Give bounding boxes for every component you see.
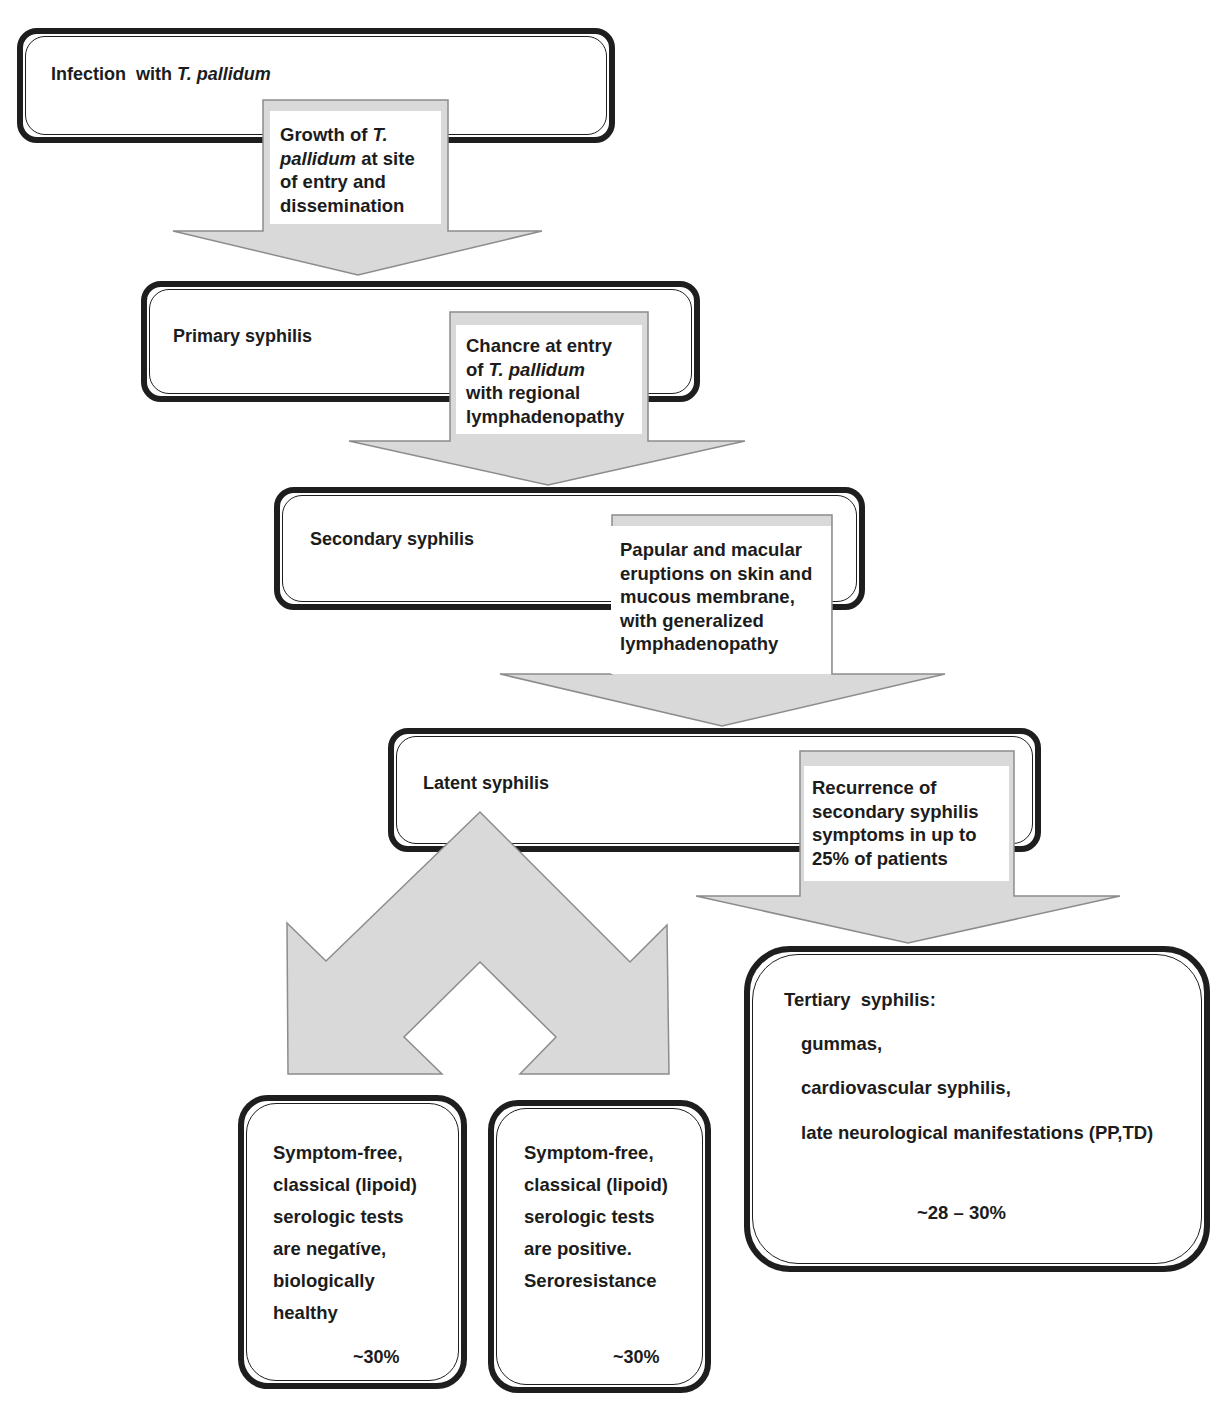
outcome-line: Symptom-free, bbox=[273, 1137, 417, 1169]
tertiary-title: Tertiary syphilis: bbox=[784, 989, 936, 1011]
growth-callout: Growth of T. pallidum at site of entry a… bbox=[270, 111, 441, 224]
split-arrow-icon bbox=[287, 812, 669, 1074]
outcome-seronegative-percentage: ~30% bbox=[353, 1347, 400, 1368]
callout-line-italic: pallidum bbox=[280, 148, 356, 169]
outcome-line: classical (lipoid) bbox=[524, 1169, 668, 1201]
outcome-line: are positive. bbox=[524, 1233, 668, 1265]
callout-line: eruptions on skin and bbox=[620, 562, 831, 586]
latent-syphilis-label: Latent syphilis bbox=[423, 773, 549, 794]
secondary-syphilis-label: Secondary syphilis bbox=[310, 529, 474, 550]
callout-line: Recurrence of bbox=[812, 776, 1009, 800]
callout-line: symptoms in up to bbox=[812, 823, 1009, 847]
outcome-line: healthy bbox=[273, 1297, 417, 1329]
outcome-line: Symptom-free, bbox=[524, 1137, 668, 1169]
callout-line: at site bbox=[356, 148, 415, 169]
outcome-line: biologically bbox=[273, 1265, 417, 1297]
pathogen-name: T. pallidum bbox=[177, 64, 271, 84]
outcome-seroresistant-percentage: ~30% bbox=[613, 1347, 660, 1368]
callout-line: mucous membrane, bbox=[620, 585, 831, 609]
callout-line: secondary syphilis bbox=[812, 800, 1009, 824]
chancre-callout: Chancre at entry of T. pallidum with reg… bbox=[456, 325, 642, 434]
tertiary-item: late neurological manifestations (PP,TD) bbox=[801, 1122, 1153, 1144]
callout-line-italic: T. pallidum bbox=[489, 359, 585, 380]
callout-line: with regional bbox=[466, 381, 642, 405]
infection-label: Infection with T. pallidum bbox=[51, 64, 271, 85]
tertiary-percentage: ~28 – 30% bbox=[917, 1202, 1006, 1224]
eruptions-callout: Papular and macular eruptions on skin an… bbox=[611, 526, 831, 674]
callout-line: of entry and bbox=[280, 170, 441, 194]
primary-syphilis-label: Primary syphilis bbox=[173, 326, 312, 347]
outcome-seroresistant-text: Symptom-free, classical (lipoid) serolog… bbox=[524, 1137, 668, 1297]
outcome-line: serologic tests bbox=[273, 1201, 417, 1233]
recurrence-callout: Recurrence of secondary syphilis symptom… bbox=[804, 766, 1009, 881]
outcome-line: Seroresistance bbox=[524, 1265, 668, 1297]
callout-line: lymphadenopathy bbox=[466, 405, 642, 429]
callout-line: dissemination bbox=[280, 194, 441, 218]
outcome-line: classical (lipoid) bbox=[273, 1169, 417, 1201]
callout-line: of bbox=[466, 359, 489, 380]
syphilis-course-diagram: Infection with T. pallidum Primary syphi… bbox=[0, 0, 1227, 1424]
callout-line: lymphadenopathy bbox=[620, 632, 831, 656]
tertiary-item: cardiovascular syphilis, bbox=[801, 1077, 1011, 1099]
callout-line: Chancre at entry bbox=[466, 334, 642, 358]
outcome-line: serologic tests bbox=[524, 1201, 668, 1233]
outcome-line: are negatíve, bbox=[273, 1233, 417, 1265]
callout-line-italic: T. bbox=[372, 124, 387, 145]
callout-line: Papular and macular bbox=[620, 538, 831, 562]
callout-line: with generalized bbox=[620, 609, 831, 633]
callout-line: Growth of bbox=[280, 124, 372, 145]
callout-line: 25% of patients bbox=[812, 847, 1009, 871]
infection-label-text: Infection with bbox=[51, 64, 177, 84]
tertiary-item: gummas, bbox=[801, 1033, 882, 1055]
outcome-seronegative-text: Symptom-free, classical (lipoid) serolog… bbox=[273, 1137, 417, 1329]
